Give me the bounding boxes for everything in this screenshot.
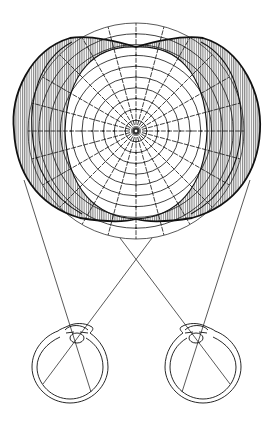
right-eye-sclera [165,324,241,404]
left-eye [32,324,108,404]
visual-field-figure [0,0,273,423]
right-eye-retina [170,337,236,399]
right-eye [165,324,241,404]
fixation-point [134,129,138,133]
right-eye-lens [189,333,203,343]
diagram-canvas: Binocular visual field diagram [0,0,273,423]
left-eye-sclera [32,324,108,404]
left-eye-retina [37,337,103,399]
sight-lines [24,180,250,392]
